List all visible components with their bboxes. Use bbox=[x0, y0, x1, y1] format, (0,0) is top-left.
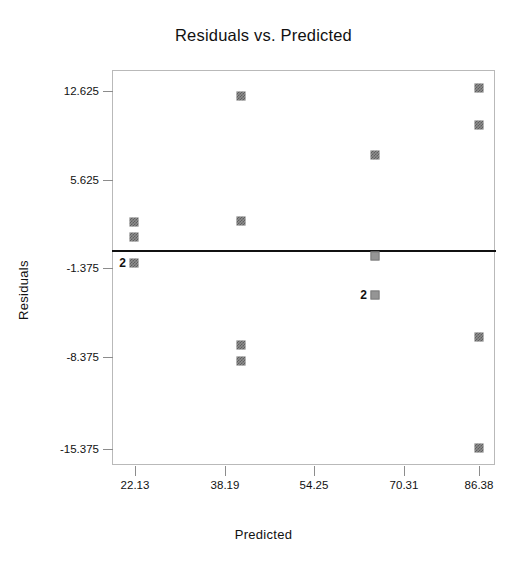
x-axis-tick bbox=[404, 466, 405, 476]
x-axis-tick-label: 86.38 bbox=[465, 479, 494, 491]
x-axis-title: Predicted bbox=[0, 527, 527, 542]
data-point-marker bbox=[237, 341, 246, 350]
y-axis-tick bbox=[103, 449, 113, 450]
y-axis-tick bbox=[103, 268, 113, 269]
data-point-marker bbox=[475, 121, 484, 130]
data-point-marker bbox=[237, 92, 246, 101]
zero-reference-line bbox=[112, 250, 496, 252]
data-point-count-label: 2 bbox=[119, 256, 129, 270]
y-axis-tick bbox=[103, 357, 113, 358]
data-point-marker bbox=[371, 252, 380, 261]
y-axis-tick bbox=[103, 180, 113, 181]
chart-title: Residuals vs. Predicted bbox=[0, 26, 527, 45]
y-axis-title: Residuals bbox=[16, 260, 31, 320]
data-point-marker bbox=[371, 151, 380, 160]
data-point-marker bbox=[475, 84, 484, 93]
data-point-marker bbox=[130, 259, 139, 268]
data-point-marker bbox=[475, 444, 484, 453]
y-axis-tick-label: 12.625 bbox=[64, 85, 99, 97]
y-axis-tick-label: 5.625 bbox=[70, 174, 99, 186]
x-axis-tick-label: 22.13 bbox=[121, 479, 150, 491]
x-axis-tick bbox=[314, 466, 315, 476]
x-axis-tick-label: 54.25 bbox=[300, 479, 329, 491]
x-axis-tick bbox=[135, 466, 136, 476]
y-axis-tick bbox=[103, 91, 113, 92]
data-point-marker bbox=[237, 357, 246, 366]
data-point-marker bbox=[371, 291, 380, 300]
chart-figure: Residuals vs. Predicted 12.6255.625-1.37… bbox=[0, 0, 527, 576]
x-axis-tick bbox=[479, 466, 480, 476]
data-point-marker bbox=[130, 218, 139, 227]
x-axis-tick-label: 38.19 bbox=[211, 479, 240, 491]
x-axis-tick-label: 70.31 bbox=[390, 479, 419, 491]
data-point-marker bbox=[237, 217, 246, 226]
data-point-marker bbox=[130, 233, 139, 242]
y-axis-tick-label: -1.375 bbox=[66, 262, 99, 274]
y-axis-tick-label: -15.375 bbox=[60, 443, 99, 455]
x-axis-tick bbox=[225, 466, 226, 476]
y-axis-tick-label: -8.375 bbox=[66, 351, 99, 363]
data-point-count-label: 2 bbox=[360, 288, 370, 302]
plot-area bbox=[112, 70, 495, 465]
data-point-marker bbox=[475, 333, 484, 342]
